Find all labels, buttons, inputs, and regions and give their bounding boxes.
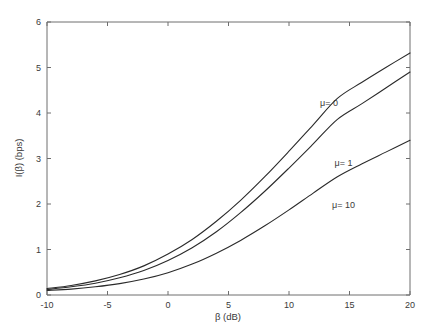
x-tick-label: 15 [344,300,354,310]
x-tick-label: 5 [226,300,231,310]
y-tick-label: 5 [36,63,41,73]
series-label-3: μ= 10 [332,200,355,210]
y-axis-title: I(β) (bps) [13,139,24,178]
chart-figure: -10-505101520 0123456 μ= 0μ= 1μ= 10 β (d… [0,0,433,330]
y-tick-label: 3 [36,154,41,164]
y-tick-label: 1 [36,245,41,255]
y-tick-label: 4 [36,108,41,118]
x-axis-title: β (dB) [215,311,241,322]
y-tick-label: 6 [36,17,41,27]
y-tick-label: 2 [36,199,41,209]
x-tick-label: 10 [284,300,294,310]
chart-background [0,0,433,330]
y-tick-label: 0 [36,290,41,300]
x-tick-label: -5 [103,300,111,310]
x-tick-label: -10 [40,300,53,310]
x-tick-label: 0 [165,300,170,310]
series-label-1: μ= 0 [320,98,338,108]
series-label-2: μ= 1 [334,158,352,168]
chart-svg: -10-505101520 0123456 μ= 0μ= 1μ= 10 β (d… [0,0,433,330]
x-tick-label: 20 [405,300,415,310]
